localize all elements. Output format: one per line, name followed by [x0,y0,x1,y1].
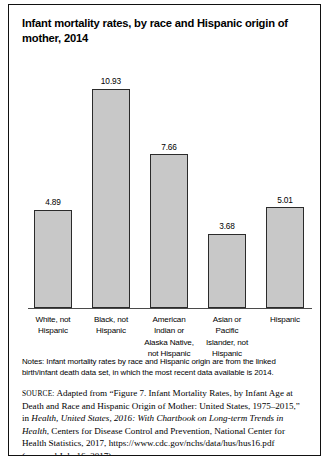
source-label: SOURCE: [22,389,55,398]
bar-value-label: 3.68 [219,221,235,231]
figure-source: SOURCE: Adapted from “Figure 7. Infant M… [22,387,307,456]
bar-chart: 4.8910.937.663.685.01 White, notHispanic… [9,52,320,352]
x-axis-tick-label: Hispanic [257,314,313,360]
bar [266,207,304,307]
x-axis-tick-label: Asian orPacificIslander, notHispanic [199,314,255,360]
bar [92,89,130,308]
tick-label-line: Pacific [199,325,255,336]
bar-slot: 3.68 [208,58,246,308]
bar-slot: 10.93 [92,58,130,308]
x-axis-line [28,308,312,309]
source-text-part2: , Centers for Disease Control and Preven… [22,426,285,456]
tick-label-line: Hispanic [83,325,139,336]
x-axis-tick-labels: White, notHispanicBlack, notHispanicAmer… [28,314,310,360]
bar-slot: 7.66 [150,58,188,308]
tick-label-line: Indian or [141,325,197,336]
bar [208,234,246,308]
tick-label-line: White, not [25,314,81,325]
bar-value-label: 7.66 [161,142,177,152]
bar-slot: 5.01 [266,58,304,308]
tick-label-line: Hispanic [25,325,81,336]
bar-value-label: 5.01 [277,195,293,205]
bar-value-label: 4.89 [45,197,61,207]
bar [150,154,188,307]
bar-value-label: 10.93 [101,76,121,86]
x-axis-tick-label: Black, notHispanic [83,314,139,360]
tick-label-line: Hispanic [199,348,255,359]
tick-label-line: Alaska Native, [141,337,197,348]
x-axis-tick-label: White, notHispanic [25,314,81,360]
tick-label-line: American [141,314,197,325]
bar [34,210,72,308]
plot-area: 4.8910.937.663.685.01 [28,58,310,308]
tick-label-line: Islander, not [199,337,255,348]
x-axis-tick-label: AmericanIndian orAlaska Native,not Hispa… [141,314,197,360]
figure-panel: Infant mortality rates, by race and Hisp… [8,4,321,456]
tick-label-line: Black, not [83,314,139,325]
bar-series: 4.8910.937.663.685.01 [28,58,310,308]
bar-slot: 4.89 [34,58,72,308]
tick-label-line: not Hispanic [141,348,197,359]
page-title: Infant mortality rates, by race and Hisp… [22,16,307,46]
tick-label-line: Hispanic [257,314,313,325]
tick-label-line: Asian or [199,314,255,325]
